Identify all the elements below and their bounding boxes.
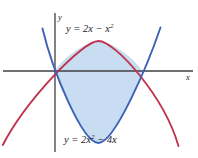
curve-label-upper-text: y = 2x − x	[66, 23, 110, 34]
curve-label-upper: y = 2x − x2	[66, 24, 113, 35]
x-axis-label: x	[186, 73, 190, 82]
y-axis-label: y	[58, 13, 62, 22]
figure-container: y = 2x − x2 y = 2x2 − 4x y x	[0, 0, 198, 158]
curve-label-lower-tail: − 4x	[94, 134, 116, 145]
shaded-area-between-curves	[55, 41, 142, 143]
curve-label-lower: y = 2x2 − 4x	[64, 135, 117, 146]
curve-label-upper-exponent: 2	[110, 22, 114, 30]
curve-label-lower-head: y = 2x	[64, 134, 91, 145]
